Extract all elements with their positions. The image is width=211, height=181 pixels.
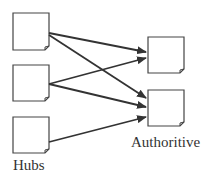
- authority-page-1: [148, 37, 184, 73]
- edge-hub1-auth1: [49, 33, 146, 52]
- hub-page-3: [13, 117, 49, 153]
- authoritive-label: Authoritive: [131, 134, 200, 151]
- hub-page-2: [13, 65, 49, 101]
- hubs-label: Hubs: [13, 157, 45, 174]
- edge-hub2-auth1: [49, 58, 146, 84]
- authority-page-2: [148, 90, 184, 126]
- edge-hub2-auth2: [49, 84, 146, 107]
- hub-page-1: [13, 13, 49, 50]
- hubs-authorities-diagram: [0, 0, 211, 181]
- edge-hub1-auth2: [49, 35, 146, 98]
